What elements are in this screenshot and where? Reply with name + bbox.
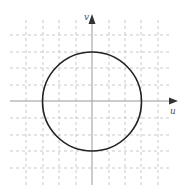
axes (10, 22, 172, 185)
grid (10, 20, 172, 185)
x-axis-label: u (170, 106, 176, 116)
y-axis-label: v (84, 12, 89, 22)
y-axis-arrow-icon (89, 14, 96, 24)
x-axis-arrow-icon (169, 98, 178, 105)
coordinate-plane: v u (0, 0, 185, 196)
